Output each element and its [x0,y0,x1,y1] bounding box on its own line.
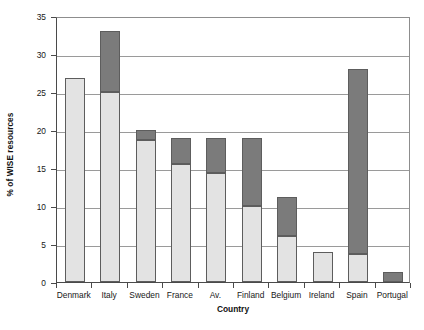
x-tick-mark [56,283,57,288]
y-tick-label: 10 [37,203,46,211]
bar-portugal[interactable] [383,16,403,282]
bar-segment-dark [100,31,120,92]
y-axis: 05101520253035% of WISE resources [0,0,56,330]
x-tick-label-sweden: Sweden [129,291,159,300]
y-tick-label: 5 [41,241,46,249]
y-tick-label: 25 [37,89,46,97]
bar-segment-light [136,140,156,282]
x-tick-mark [233,283,234,288]
x-tick-mark [375,283,376,288]
plot-area [56,17,410,283]
x-tick-mark [198,283,199,288]
x-tick-mark [339,283,340,288]
bar-segment-light [313,252,333,282]
bar-ireland[interactable] [313,16,333,282]
bar-segment-dark [242,138,262,206]
bar-segment-light [206,173,226,282]
bars-layer [57,18,409,282]
bar-italy[interactable] [100,16,120,282]
x-tick-mark [304,283,305,288]
bar-segment-dark [171,138,191,165]
bar-chart: 05101520253035% of WISE resources Denmar… [0,0,424,330]
x-tick-label-portugal: Portugal [377,291,408,300]
bar-segment-light [242,206,262,282]
x-axis-title: Country [56,304,410,314]
bar-spain[interactable] [348,16,368,282]
x-tick-label-spain: Spain [346,291,367,300]
y-tick-label: 30 [37,51,46,59]
bar-france[interactable] [171,16,191,282]
bar-finland[interactable] [242,16,262,282]
bar-belgium[interactable] [277,16,297,282]
x-tick-label-belgium: Belgium [271,291,301,300]
x-tick-mark [91,283,92,288]
x-tick-mark [410,283,411,288]
bar-segment-dark [348,69,368,254]
bar-segment-light [348,254,368,282]
bar-segment-light [171,164,191,282]
bar-sweden[interactable] [136,16,156,282]
bar-av[interactable] [206,16,226,282]
bar-segment-light [277,236,297,282]
x-tick-label-ireland: Ireland [309,291,335,300]
bar-denmark[interactable] [65,16,85,282]
x-tick-label-france: France [167,291,193,300]
y-tick-label: 35 [37,13,46,21]
y-axis-title: % of WISE resources [6,75,15,235]
bar-segment-dark [383,272,403,282]
x-tick-label-av: Av. [210,291,221,300]
x-tick-mark [162,283,163,288]
bar-segment-dark [277,197,297,237]
x-tick-label-finland: Finland [237,291,264,300]
bar-segment-light [65,78,85,282]
bar-segment-dark [136,130,156,140]
x-tick-label-italy: Italy [101,291,116,300]
y-tick-label: 15 [37,165,46,173]
x-tick-mark [127,283,128,288]
bar-segment-light [100,92,120,282]
y-tick-label: 0 [41,279,46,287]
x-tick-mark [268,283,269,288]
bar-segment-dark [206,138,226,174]
x-tick-label-denmark: Denmark [57,291,91,300]
y-tick-label: 20 [37,127,46,135]
